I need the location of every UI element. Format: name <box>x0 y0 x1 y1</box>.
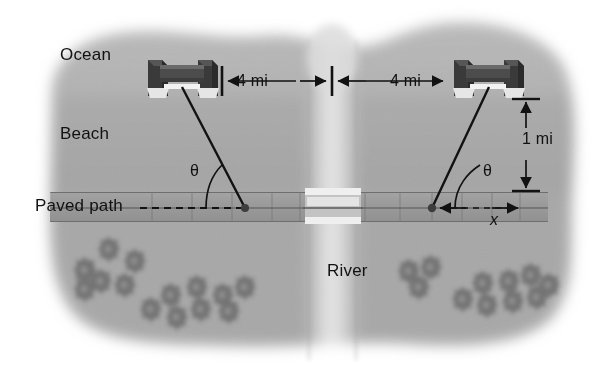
label-angle-left: θ <box>190 162 199 180</box>
label-dim-right: 4 mi <box>390 72 421 90</box>
label-angle-right: θ <box>483 162 492 180</box>
label-dim-left: 4 mi <box>237 72 268 90</box>
beach-river-path-diagram: Ocean Beach Paved path River 4 mi 4 mi 1… <box>0 0 605 368</box>
path-point-right <box>428 204 436 212</box>
label-dim-vertical: 1 mi <box>522 130 553 148</box>
leg-left-diagonal <box>182 87 245 208</box>
label-paved-path: Paved path <box>35 196 123 216</box>
angle-arc-left <box>206 165 222 208</box>
leg-right-diagonal <box>432 87 489 208</box>
label-river: River <box>327 261 368 281</box>
label-ocean: Ocean <box>60 45 111 65</box>
label-distance-x: x <box>490 211 498 229</box>
angle-arc-right <box>455 165 480 208</box>
label-beach: Beach <box>60 124 109 144</box>
path-point-left <box>241 204 249 212</box>
